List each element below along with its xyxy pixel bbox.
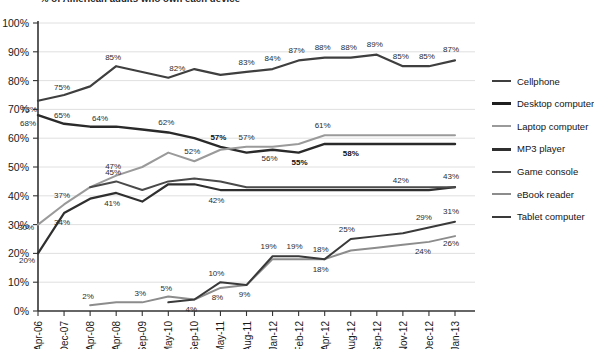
data-label: 8% [212, 293, 224, 302]
data-label: 57% [210, 133, 226, 142]
x-tick-label: Apr-08 [85, 321, 96, 349]
x-tick-label: Jan-13 [450, 321, 461, 349]
legend-item-desktop-computer[interactable]: Desktop computer [492, 93, 592, 116]
data-label: 25% [339, 225, 355, 234]
series-line-mp3-player [38, 184, 455, 253]
legend-swatch-line [492, 148, 511, 151]
y-tick-label: 70% [8, 103, 29, 115]
x-tick-label: Dec-07 [59, 321, 70, 349]
data-label: 62% [158, 118, 174, 127]
legend-swatch-line [492, 125, 511, 127]
data-label: 85% [419, 52, 435, 61]
legend-item-tablet-computer[interactable]: Tablet computer [492, 206, 592, 229]
x-tick-label: Aug-11 [242, 321, 253, 349]
legend-item-mp3-player[interactable]: MP3 player [492, 138, 592, 161]
data-label: 85% [393, 52, 409, 61]
data-label: 2% [82, 292, 94, 301]
data-label: 26% [443, 239, 459, 248]
data-label: 64% [92, 114, 108, 123]
data-label: 87% [443, 45, 459, 54]
x-axis-tick-labels: Apr-06Dec-07Apr-08Apr-08Sep-09May-10Sep-… [33, 321, 461, 349]
x-tick-label: Apr-06 [33, 321, 44, 349]
data-label: 34% [54, 218, 70, 227]
y-tick-label: 100% [2, 17, 29, 29]
y-tick-label: 80% [8, 75, 29, 87]
data-label: 88% [341, 43, 357, 52]
data-label: 18% [313, 265, 329, 274]
legend-item-game-console[interactable]: Game console [492, 160, 592, 183]
x-tick-label: May-10 [163, 321, 174, 349]
legend-item-laptop-computer[interactable]: Laptop computer [492, 115, 592, 138]
legend-label: Tablet computer [517, 212, 585, 222]
legend-label: Game console [517, 167, 578, 177]
data-label: 42% [393, 176, 409, 185]
data-label: 43% [443, 172, 459, 181]
x-tick-label: Sep-09 [137, 321, 148, 349]
y-axis-tick-labels: 0%10%20%30%40%50%60%70%80%90%100% [2, 17, 29, 317]
legend-label: eBook reader [517, 190, 574, 200]
data-label: 18% [313, 245, 329, 254]
x-tick-label: Apr-08 [111, 321, 122, 349]
data-label: 85% [105, 53, 121, 62]
data-label: 10% [208, 269, 224, 278]
legend-swatch-line [492, 193, 511, 195]
legend-swatch-line [492, 80, 511, 82]
data-label: 9% [239, 290, 251, 299]
data-label: 52% [184, 147, 200, 156]
x-tick-label: Sep-10 [189, 321, 200, 349]
data-label: 89% [367, 40, 383, 49]
x-tick-label: Dec-12 [424, 321, 435, 349]
data-label: 56% [262, 154, 278, 163]
data-label: 3% [134, 289, 146, 298]
data-label: 42% [208, 196, 224, 205]
legend-item-cellphone[interactable]: Cellphone [492, 70, 592, 93]
y-tick-label: 10% [8, 276, 29, 288]
y-tick-label: 50% [8, 161, 29, 173]
legend-label: Laptop computer [517, 122, 588, 132]
x-tick-label: Apr-12 [320, 321, 331, 349]
y-tick-label: 40% [8, 190, 29, 202]
x-tick-label: Jan-12 [268, 321, 279, 349]
y-tick-label: 60% [8, 132, 29, 144]
data-label: 4% [186, 305, 198, 314]
y-tick-label: 90% [8, 46, 29, 58]
data-label: 55% [292, 158, 308, 167]
data-label: 37% [54, 191, 70, 200]
data-label: 65% [54, 111, 70, 120]
legend-label: Cellphone [517, 77, 560, 87]
legend-label: Desktop computer [517, 99, 594, 109]
data-label: 75% [54, 83, 70, 92]
x-tick-label: Feb-12 [294, 321, 305, 349]
data-label: 87% [289, 46, 305, 55]
data-label: 19% [261, 242, 277, 251]
legend-swatch-line [492, 102, 511, 105]
legend-label: MP3 player [517, 144, 565, 154]
data-label: 57% [238, 133, 254, 142]
legend-swatch-line [492, 216, 511, 218]
data-label: 19% [287, 242, 303, 251]
legend-item-ebook-reader[interactable]: eBook reader [492, 183, 592, 206]
y-tick-label: 0% [14, 305, 29, 317]
data-label: 24% [415, 247, 431, 256]
data-label: 29% [416, 213, 432, 222]
data-label: 88% [315, 43, 331, 52]
data-label: 61% [315, 121, 331, 130]
x-tick-label: Nov-12 [398, 321, 409, 349]
data-label: 82% [169, 64, 185, 73]
data-label: 83% [238, 58, 254, 67]
data-label: 31% [443, 207, 459, 216]
data-label: 58% [343, 149, 359, 158]
series-line-tablet-computer [168, 222, 455, 303]
data-label: 68% [20, 119, 36, 128]
legend-swatch-line [492, 171, 511, 173]
data-label: 5% [161, 284, 173, 293]
data-label: 41% [104, 199, 120, 208]
x-tick-label: Sep-12 [372, 321, 383, 349]
x-tick-label: May-11 [215, 321, 226, 349]
chart-legend: CellphoneDesktop computerLaptop computer… [492, 70, 592, 228]
x-tick-label: Aug-12 [346, 321, 357, 349]
y-tick-label: 30% [8, 219, 29, 231]
data-label: 45% [105, 168, 121, 177]
data-label: 84% [265, 54, 281, 63]
y-tick-label: 20% [8, 247, 29, 259]
